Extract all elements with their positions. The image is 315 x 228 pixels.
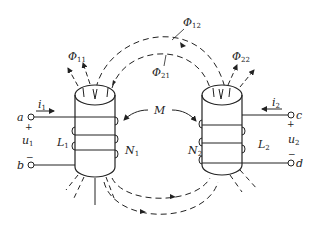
flux-line-phi12 (96, 37, 225, 88)
label-plus-1: + (25, 122, 33, 132)
terminal-c-icon (288, 112, 294, 118)
label-u2: u2 (288, 133, 300, 147)
label-phi22: Φ22 (232, 50, 250, 64)
coil-1-bottom-arc (75, 167, 115, 177)
arrow-icon (180, 42, 186, 48)
phi22-arrows (228, 65, 254, 87)
label-minus-1: − (26, 152, 34, 162)
label-i2: i2 (272, 96, 280, 110)
phi11-arrows (68, 63, 90, 86)
label-terminal-b: b (17, 159, 24, 172)
label-terminal-a: a (17, 111, 24, 124)
coil-2-bottom-arc (202, 165, 242, 175)
arrow-icon (112, 80, 116, 86)
coil-1-top-ellipse (75, 85, 115, 105)
label-phi21: Φ21 (152, 66, 170, 80)
label-i1: i1 (38, 98, 46, 112)
label-N1: N1 (124, 144, 139, 158)
coil-1 (34, 85, 118, 177)
label-phi12: Φ12 (183, 16, 201, 30)
terminals (28, 112, 294, 168)
label-plus-2: + (287, 119, 295, 129)
label-N2: N2 (187, 144, 202, 158)
arrow-icon (170, 194, 176, 199)
leader-phi21 (164, 55, 166, 66)
label-phi11: Φ11 (68, 50, 86, 64)
coil-1-bottom-flux (66, 175, 114, 205)
flux-arrowheads (112, 42, 186, 214)
terminal-d-icon (288, 160, 294, 166)
label-mutual-m: M (153, 104, 166, 117)
label-minus-2: − (288, 149, 296, 159)
terminal-b-icon (28, 162, 34, 168)
label-L2: L2 (257, 138, 270, 152)
terminal-a-icon (28, 114, 34, 120)
label-u1: u1 (22, 134, 34, 148)
label-terminal-c: c (296, 109, 302, 122)
flux-line-bottom-inner (112, 178, 210, 198)
label-terminal-d: d (296, 157, 303, 170)
label-L1: L1 (56, 136, 69, 150)
coupled-inductors-diagram: Φ11 Φ12 Φ21 Φ22 M a b + − u1 i1 L1 N1 c … (0, 0, 315, 228)
